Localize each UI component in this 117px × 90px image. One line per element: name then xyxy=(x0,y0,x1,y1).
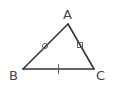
vertex-label-c: C xyxy=(96,68,105,83)
triangle-diagram: A B C xyxy=(0,0,117,90)
side-ac xyxy=(68,24,94,69)
side-ab xyxy=(23,24,68,69)
vertex-label-a: A xyxy=(63,7,72,22)
vertex-label-b: B xyxy=(9,68,18,83)
